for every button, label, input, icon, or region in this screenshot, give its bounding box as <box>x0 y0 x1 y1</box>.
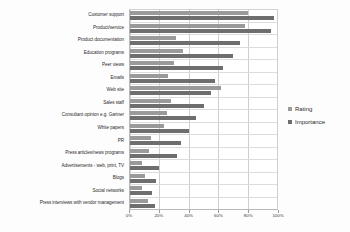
bar-row <box>130 135 277 148</box>
bar-row <box>130 23 277 36</box>
category-label: Press interviews with vendor management <box>0 197 127 210</box>
gridline <box>277 10 278 209</box>
category-label: Social networks <box>0 185 127 198</box>
bar-rating <box>130 24 245 28</box>
bar-importance <box>130 79 215 83</box>
category-label: Product/service <box>0 22 127 35</box>
bar-row <box>130 148 277 161</box>
legend-item[interactable]: Rating <box>288 106 325 112</box>
bar-rating <box>130 111 167 115</box>
bar-row <box>130 173 277 186</box>
bar-row <box>130 185 277 198</box>
bar-importance <box>130 16 274 20</box>
x-tick-label: 20% <box>154 213 163 218</box>
category-label: Customer support <box>0 9 127 22</box>
bar-importance <box>130 41 240 45</box>
bar-rows <box>130 10 277 209</box>
bar-importance <box>130 154 177 158</box>
category-label: Peer views <box>0 59 127 72</box>
x-tick-label: 40% <box>184 213 193 218</box>
bar-rating <box>130 136 151 140</box>
bar-rating <box>130 86 221 90</box>
category-label: Web site <box>0 84 127 97</box>
x-tick-label: 80% <box>244 213 253 218</box>
x-tick-label: 60% <box>214 213 223 218</box>
bar-importance <box>130 179 156 183</box>
plot-area <box>129 9 278 210</box>
x-tick-label: 0% <box>126 213 132 218</box>
bar-row <box>130 198 277 210</box>
bar-importance <box>130 141 181 145</box>
bar-row <box>130 35 277 48</box>
x-tick-label: 100% <box>272 213 283 218</box>
bar-row <box>130 160 277 173</box>
category-label: PR <box>0 135 127 148</box>
bar-rating <box>130 186 142 190</box>
bar-row <box>130 85 277 98</box>
bar-row <box>130 98 277 111</box>
category-label: Consultant opinion e.g. Gartner <box>0 110 127 123</box>
bar-importance <box>130 116 196 120</box>
bar-importance <box>130 29 271 33</box>
bar-row <box>130 60 277 73</box>
category-label: Product documentation <box>0 34 127 47</box>
category-label: Education programs <box>0 47 127 60</box>
bar-importance <box>130 54 233 58</box>
bar-rating <box>130 11 248 15</box>
category-label: Emails <box>0 72 127 85</box>
legend-swatch-icon <box>288 120 292 124</box>
category-label: Blogs <box>0 172 127 185</box>
bar-rating <box>130 36 176 40</box>
bar-rating <box>130 161 142 165</box>
legend-label: Rating <box>295 106 312 112</box>
bar-importance <box>130 129 189 133</box>
bar-importance <box>130 166 159 170</box>
bar-rating <box>130 99 171 103</box>
bar-row <box>130 73 277 86</box>
bar-importance <box>130 91 211 95</box>
category-label: Advertisements - web, print, TV <box>0 160 127 173</box>
legend-label: Importance <box>295 119 325 125</box>
bar-importance <box>130 104 204 108</box>
bar-rating <box>130 49 183 53</box>
category-axis-labels: Customer supportProduct/serviceProduct d… <box>0 9 127 210</box>
bar-importance <box>130 66 223 70</box>
bar-importance <box>130 204 155 208</box>
bar-rating <box>130 61 174 65</box>
x-axis: 0%20%40%60%80%100% <box>129 210 278 222</box>
bar-row <box>130 48 277 61</box>
legend-swatch-icon <box>288 107 292 111</box>
bar-importance <box>130 191 152 195</box>
legend-item[interactable]: Importance <box>288 119 325 125</box>
bar-rating <box>130 174 145 178</box>
category-label: Press articles/news programs <box>0 147 127 160</box>
bar-rating <box>130 149 149 153</box>
bar-rating <box>130 199 148 203</box>
bar-chart: Customer supportProduct/serviceProduct d… <box>0 0 350 232</box>
bar-rating <box>130 74 168 78</box>
bar-row <box>130 110 277 123</box>
category-label: Sales staff <box>0 97 127 110</box>
chart-legend: RatingImportance <box>288 106 325 125</box>
category-label: White papers <box>0 122 127 135</box>
bar-rating <box>130 124 164 128</box>
bar-row <box>130 123 277 136</box>
bar-row <box>130 10 277 23</box>
